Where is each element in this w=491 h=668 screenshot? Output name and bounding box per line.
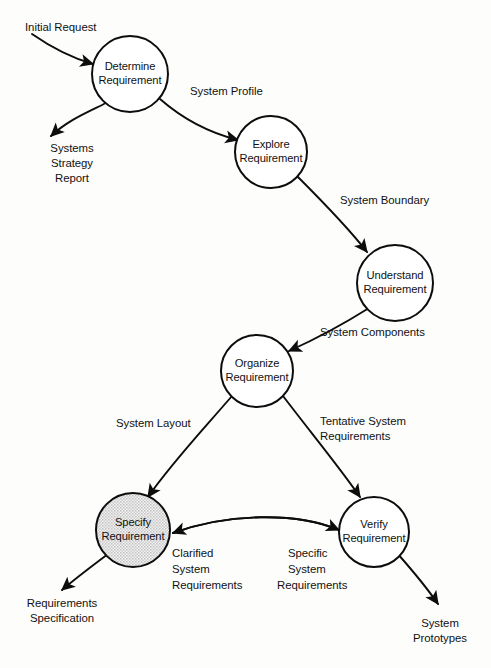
flow-label-tentative-requirements: Requirements	[320, 430, 391, 442]
flow-label-report: Report	[55, 172, 90, 184]
flow-arrow-systems-strategy-report	[51, 103, 106, 136]
flow-arrow-system-prototypes	[397, 553, 438, 604]
diagram-canvas: Determine Requirement Explore Requiremen…	[0, 0, 491, 668]
flow-label-specific-requirements: Requirements	[277, 579, 348, 591]
dataflow-diagram: Determine Requirement Explore Requiremen…	[0, 0, 491, 668]
flow-arrow-tentative-system-requirements	[283, 396, 360, 497]
flow-label-system-layout: System Layout	[116, 417, 192, 429]
process-understand-requirement[interactable]: Understand Requirement	[357, 245, 433, 321]
flow-label-system-components: System Components	[320, 326, 425, 338]
flow-label-strategy: Strategy	[51, 157, 93, 169]
process-verify-requirement[interactable]: Verify Requirement	[339, 497, 409, 567]
flow-label-tentative-system: Tentative System	[320, 415, 406, 427]
flow-label-initial-request: Initial Request	[25, 21, 97, 33]
process-specify-requirement[interactable]: Specify Requirement	[96, 493, 170, 567]
flow-arrow-requirements-specification	[62, 554, 108, 590]
flow-arrow-initial-request	[32, 34, 93, 64]
flow-label-specific-system: System	[288, 563, 326, 575]
process-label-determine-line2: Requirement	[99, 74, 163, 86]
process-label-verify-line2: Requirement	[343, 532, 407, 544]
process-label-specify-line2: Requirement	[102, 530, 166, 542]
flow-label-clarified-requirements: Requirements	[172, 579, 243, 591]
process-organize-requirement[interactable]: Organize Requirement	[221, 335, 293, 407]
flow-label-system: System	[421, 617, 459, 629]
flow-arrow-specific-system-requirements	[173, 517, 339, 533]
flow-arrow-system-profile	[160, 99, 238, 140]
process-determine-requirement[interactable]: Determine Requirement	[92, 36, 168, 112]
flow-label-system-boundary: System Boundary	[340, 194, 430, 206]
flow-label-requirements: Requirements	[27, 597, 98, 609]
process-label-organize-line2: Requirement	[226, 371, 290, 383]
process-label-verify-line1: Verify	[360, 518, 388, 530]
process-label-explore-line2: Requirement	[240, 152, 304, 164]
process-label-understand-line2: Requirement	[364, 283, 428, 295]
flow-label-specification: Specification	[30, 612, 94, 624]
process-label-specify-line1: Specify	[115, 516, 151, 528]
process-label-understand-line1: Understand	[367, 269, 424, 281]
process-label-explore-line1: Explore	[252, 138, 289, 150]
flow-label-systems: Systems	[50, 142, 94, 154]
process-explore-requirement[interactable]: Explore Requirement	[235, 116, 307, 188]
flow-label-specific: Specific	[288, 547, 328, 559]
flow-label-prototypes: Prototypes	[413, 632, 467, 644]
flow-label-clarified: Clarified	[172, 547, 213, 559]
flow-label-system-profile: System Profile	[190, 85, 263, 97]
process-label-organize-line1: Organize	[235, 357, 280, 369]
flow-arrow-system-layout	[148, 396, 232, 497]
process-label-determine-line1: Determine	[105, 60, 156, 72]
flow-label-clarified-system: System	[172, 563, 210, 575]
flow-arrow-system-boundary	[297, 176, 367, 252]
